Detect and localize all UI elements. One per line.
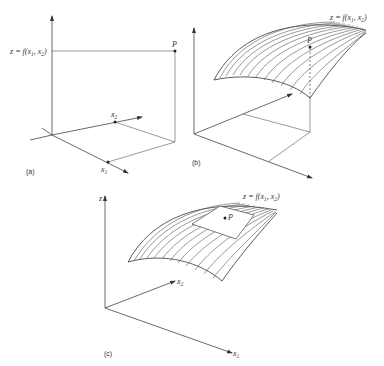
x2-axis-c: [105, 281, 175, 308]
point-x1-a: [107, 161, 110, 164]
x2-label-a: x2: [110, 110, 118, 120]
panel-c: P z = f(x1, x2) z x2 x1 (c): [98, 192, 280, 359]
panel-label-c: (c): [104, 350, 112, 358]
point-p-c: [224, 217, 227, 220]
x2-label-c: x2: [176, 277, 184, 287]
p-label-a: P: [171, 40, 177, 49]
panel-label-a: (a): [26, 168, 35, 176]
x1-axis-a: [52, 135, 128, 173]
x1-label-a: x1: [100, 165, 108, 175]
surface-c: [128, 203, 277, 281]
proj-x2-a: [115, 122, 175, 142]
x2-axis-tail-a: [30, 135, 52, 140]
panel-a: P z = f(x1, x2) x2 x1 (a): [9, 16, 177, 176]
panel-b: P z = f(x1, x2) (b): [192, 13, 367, 178]
x1-axis-tail-a: [42, 128, 52, 135]
function-label-b: z = f(x1, x2): [329, 13, 367, 23]
panel-label-b: (b): [192, 159, 201, 167]
x1-axis-c: [105, 308, 232, 353]
point-x2-a: [114, 121, 117, 124]
z-label-c: z: [98, 194, 103, 203]
p-label-b: P: [306, 36, 312, 45]
x1-axis-b: [194, 134, 312, 178]
figure-canvas: P z = f(x1, x2) x2 x1 (a): [0, 0, 384, 366]
point-p-a: [174, 50, 177, 53]
x2-axis-a: [52, 117, 142, 135]
proj-x1-b: [268, 132, 310, 162]
x1-label-c: x1: [232, 349, 240, 359]
p-label-c: P: [227, 213, 233, 222]
proj-x2-b: [243, 114, 310, 132]
proj-x1-a: [108, 142, 175, 162]
surface-b: [214, 22, 366, 98]
function-label-c: z = f(x1, x2): [242, 192, 280, 202]
point-p-b: [309, 46, 312, 49]
function-label-a: z = f(x1, x2): [9, 47, 47, 57]
